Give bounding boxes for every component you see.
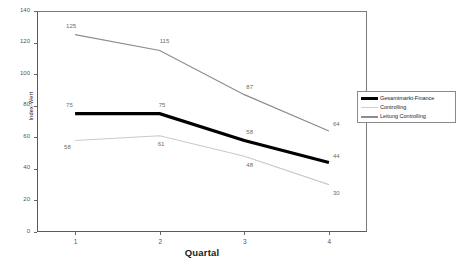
legend-label-controlling: Controlling <box>380 105 406 111</box>
legend-item-leitung-controlling[interactable]: Leitung Controlling <box>361 112 452 121</box>
legend-swatch-controlling <box>361 107 378 109</box>
point-label: 30 <box>333 190 340 196</box>
y-tick-20: 20 <box>0 200 37 201</box>
y-tick-mark <box>34 169 37 170</box>
legend-label-gesamtmarkt-finance: Gesamtmarkt-Finance <box>380 96 434 102</box>
y-tick-label: 100 <box>20 70 30 76</box>
chart-container: Index-Wert 020406080100120140 1234 Quart… <box>0 0 460 266</box>
point-label: 44 <box>333 153 340 159</box>
plot-area <box>37 11 367 232</box>
legend-swatch-leitung-controlling <box>361 116 378 118</box>
point-label: 58 <box>64 144 71 150</box>
y-tick-mark <box>34 232 37 233</box>
y-tick-label: 140 <box>20 7 30 13</box>
legend-item-controlling[interactable]: Controlling <box>361 103 452 112</box>
y-tick-0: 0 <box>0 232 37 233</box>
point-label: 61 <box>158 141 165 147</box>
y-tick-mark <box>34 137 37 138</box>
x-tick-mark <box>75 232 76 235</box>
y-tick-label: 80 <box>23 101 30 107</box>
point-label: 87 <box>246 84 253 90</box>
y-tick-mark <box>34 106 37 107</box>
y-tick-label: 120 <box>20 38 30 44</box>
y-tick-label: 40 <box>23 164 30 170</box>
y-tick-mark <box>34 74 37 75</box>
x-tick-label: 1 <box>61 238 90 245</box>
point-label: 48 <box>246 162 253 168</box>
legend: Gesamtmarkt-Finance Controlling Leitung … <box>357 91 456 123</box>
y-tick-140: 140 <box>0 11 37 12</box>
x-tick-label: 3 <box>230 238 259 245</box>
x-tick-mark <box>160 232 161 235</box>
y-tick-label: 60 <box>23 133 30 139</box>
y-tick-mark <box>34 43 37 44</box>
y-tick-40: 40 <box>0 169 37 170</box>
y-tick-mark <box>34 200 37 201</box>
point-label: 64 <box>333 121 340 127</box>
point-label: 58 <box>246 129 253 135</box>
legend-item-gesamtmarkt-finance[interactable]: Gesamtmarkt-Finance <box>361 94 452 103</box>
x-tick-label: 4 <box>315 238 344 245</box>
x-tick-label: 2 <box>146 238 175 245</box>
y-tick-label: 20 <box>23 196 30 202</box>
legend-swatch-gesamtmarkt-finance <box>361 97 378 101</box>
x-axis-title: Quartal <box>37 247 367 258</box>
x-tick-mark <box>329 232 330 235</box>
y-tick-100: 100 <box>0 74 37 75</box>
x-tick-mark <box>244 232 245 235</box>
point-label: 115 <box>160 38 170 44</box>
y-tick-label: 0 <box>27 228 30 234</box>
y-tick-60: 60 <box>0 137 37 138</box>
point-label: 75 <box>66 102 73 108</box>
point-label: 75 <box>159 102 166 108</box>
y-tick-120: 120 <box>0 43 37 44</box>
point-label: 125 <box>66 23 76 29</box>
y-tick-80: 80 <box>0 106 37 107</box>
legend-label-leitung-controlling: Leitung Controlling <box>380 114 426 120</box>
y-tick-mark <box>34 11 37 12</box>
